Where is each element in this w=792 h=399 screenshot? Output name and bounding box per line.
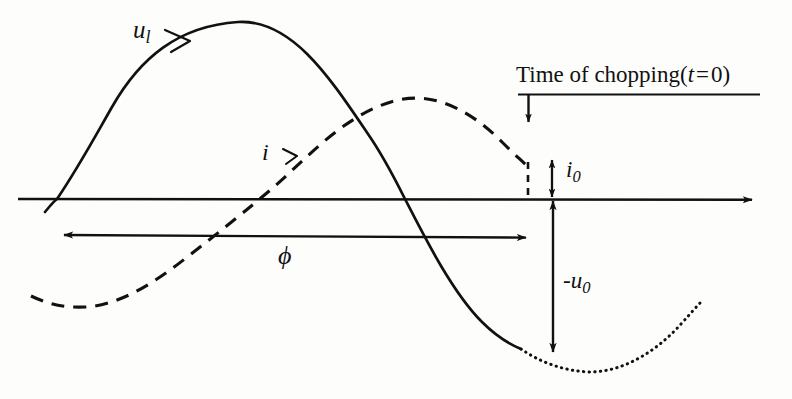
chopping-paren-open: (: [680, 62, 688, 87]
chopping-paren-close: ): [723, 62, 731, 87]
chopping-instant-text: Time of chopping: [516, 62, 680, 87]
equals-sign: =: [694, 62, 711, 87]
current-label-leader: [283, 149, 297, 164]
time-value: 0: [711, 62, 723, 87]
voltage-label-symbol: u: [133, 16, 146, 43]
initial-voltage-symbol: -u: [563, 268, 582, 293]
voltage-label-subscript: l: [146, 27, 151, 47]
voltage-prospective-dotted-curve: [521, 302, 701, 372]
chopping-leader: [518, 95, 760, 123]
waveform-canvas: [0, 0, 792, 399]
current-waveform-curve: [31, 98, 528, 307]
current-label: i: [262, 140, 269, 164]
initial-current-label: i0: [566, 158, 581, 185]
chopping-instant-annotation: Time of chopping(t=0): [516, 63, 730, 86]
initial-current-subscript: 0: [572, 167, 580, 186]
voltage-label: ul: [133, 17, 151, 46]
chopped-current-waveform-diagram: ul i ϕ i0 -u0 Time of chopping(t=0): [0, 0, 792, 399]
time-axis: [18, 199, 752, 200]
initial-voltage-subscript: 0: [582, 278, 590, 297]
phase-angle-label: ϕ: [278, 243, 291, 269]
phase-angle-measure-arrow: [64, 235, 526, 238]
initial-voltage-label: -u0: [563, 269, 590, 296]
